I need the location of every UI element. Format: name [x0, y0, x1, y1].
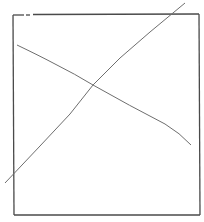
frame: [13, 14, 200, 215]
ascending-line: [5, 3, 185, 183]
frame-left-edge: [13, 15, 14, 215]
diagram-svg: [0, 0, 204, 222]
diagram-canvas: [0, 0, 204, 222]
frame-right-edge: [199, 14, 200, 215]
frame-top-segment: [33, 14, 199, 15]
descending-line: [17, 45, 191, 145]
crossing-lines: [5, 3, 191, 183]
